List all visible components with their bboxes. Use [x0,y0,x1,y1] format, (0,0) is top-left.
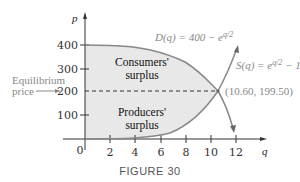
producers-label-1: Producers' [118,106,166,118]
chart: 400 300 200 100 0 2 4 6 8 10 12 p q D(q)… [0,0,300,182]
svg-text:100: 100 [57,109,78,122]
equilibrium-label-2: price [12,85,34,97]
svg-text:0: 0 [77,144,84,157]
equilibrium-point [217,90,220,93]
svg-text:2: 2 [107,146,114,159]
consumers-surplus-region [85,45,218,91]
y-axis-label: p [71,12,78,24]
supply-arrow-icon [234,45,239,53]
svg-text:6: 6 [158,146,165,159]
consumers-label-1: Consumers' [115,56,169,68]
consumers-label-2: surplus [125,69,159,82]
figure-caption: FIGURE 30 [119,165,180,177]
y-axis-arrow-icon [83,12,87,19]
demand-label: D(q) = 400 − eq/2 [154,30,233,44]
producers-label-2: surplus [125,119,159,132]
svg-text:400: 400 [57,39,78,52]
equilibrium-point-label: (10.60, 199.50) [225,85,293,98]
x-axis-label: q [262,145,268,157]
supply-label: S(q) = eq/2 − 1 [236,58,300,72]
x-axis-arrow-icon [260,137,267,141]
svg-text:12: 12 [229,146,243,159]
svg-text:4: 4 [132,146,139,159]
svg-text:8: 8 [183,146,190,159]
svg-text:10: 10 [204,146,218,159]
svg-text:200: 200 [57,85,78,98]
demand-arrow-icon [230,125,236,133]
